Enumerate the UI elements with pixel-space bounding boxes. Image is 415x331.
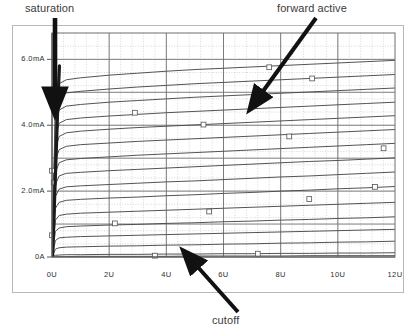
x-tick-label-1: 2U: [94, 270, 124, 279]
y-tick-label-0: 0A: [11, 252, 45, 261]
y-tick-label-2: 4.0mA: [11, 120, 45, 129]
x-tick-label-6: 12U: [380, 270, 410, 279]
figure-frame: [12, 25, 404, 293]
x-tick-label-2: 4U: [151, 270, 181, 279]
x-tick-label-3: 6U: [209, 270, 239, 279]
x-tick-label-5: 10U: [323, 270, 353, 279]
saturation-annotation-label: saturation: [25, 2, 74, 14]
forward-active-annotation-label: forward active: [277, 2, 347, 14]
cutoff-annotation-label: cutoff: [212, 314, 239, 326]
y-tick-label-1: 2.0mA: [11, 186, 45, 195]
x-tick-label-4: 8U: [266, 270, 296, 279]
x-tick-label-0: 0U: [37, 270, 67, 279]
y-tick-label-3: 6.0mA: [11, 54, 45, 63]
